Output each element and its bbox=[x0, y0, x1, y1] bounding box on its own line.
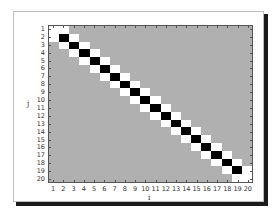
x-tick-mark bbox=[197, 180, 198, 183]
matrix-cell bbox=[201, 57, 211, 65]
x-tick-label: 10 bbox=[141, 186, 149, 193]
matrix-cell bbox=[201, 151, 211, 159]
matrix-cell bbox=[59, 120, 69, 128]
matrix-cell bbox=[120, 73, 130, 81]
matrix-cell bbox=[69, 135, 79, 143]
matrix-cell bbox=[211, 96, 221, 104]
matrix-cell bbox=[69, 42, 79, 50]
matrix-cell bbox=[171, 120, 181, 128]
matrix-cell bbox=[90, 151, 100, 159]
matrix-cell bbox=[181, 159, 191, 167]
matrix-cell bbox=[191, 135, 201, 143]
y-tick-label: 13 bbox=[37, 121, 45, 128]
matrix-cell bbox=[222, 151, 232, 159]
x-tick-label: 9 bbox=[133, 186, 137, 193]
matrix-cell bbox=[120, 159, 130, 167]
x-tick-mark bbox=[207, 25, 208, 28]
matrix-cell bbox=[90, 112, 100, 120]
matrix-cell bbox=[150, 151, 160, 159]
x-tick-mark bbox=[156, 180, 157, 183]
y-tick-label: 3 bbox=[41, 42, 45, 49]
x-tick-mark bbox=[53, 180, 54, 183]
matrix-cell bbox=[130, 88, 140, 96]
matrix-cell bbox=[79, 166, 89, 174]
y-tick-mark bbox=[250, 124, 253, 125]
y-tick-mark bbox=[48, 68, 51, 69]
matrix-cell bbox=[201, 104, 211, 112]
matrix-cell bbox=[232, 42, 242, 50]
matrix-cell bbox=[181, 65, 191, 73]
matrix-cell bbox=[59, 73, 69, 81]
matrix-cell bbox=[161, 65, 171, 73]
matrix-cell bbox=[140, 104, 150, 112]
x-tick-mark bbox=[217, 180, 218, 183]
matrix-cell bbox=[79, 112, 89, 120]
matrix-cell bbox=[191, 96, 201, 104]
matrix-grid bbox=[49, 26, 252, 182]
y-tick-mark bbox=[48, 179, 51, 180]
matrix-cell bbox=[140, 96, 150, 104]
matrix-cell bbox=[161, 73, 171, 81]
matrix-cell bbox=[171, 135, 181, 143]
matrix-cell bbox=[181, 104, 191, 112]
matrix-cell bbox=[110, 104, 120, 112]
matrix-cell bbox=[120, 49, 130, 57]
matrix-cell bbox=[211, 104, 221, 112]
matrix-cell bbox=[130, 166, 140, 174]
x-tick-mark bbox=[197, 25, 198, 28]
matrix-cell bbox=[201, 143, 211, 151]
y-tick-mark bbox=[250, 147, 253, 148]
y-tick-mark bbox=[48, 100, 51, 101]
matrix-cell bbox=[191, 120, 201, 128]
matrix-cell bbox=[201, 166, 211, 174]
matrix-cell bbox=[110, 120, 120, 128]
matrix-cell bbox=[150, 143, 160, 151]
matrix-cell bbox=[161, 34, 171, 42]
matrix-cell bbox=[110, 42, 120, 50]
matrix-cell bbox=[110, 112, 120, 120]
matrix-cell bbox=[90, 96, 100, 104]
matrix-cell bbox=[69, 81, 79, 89]
matrix-cell bbox=[100, 81, 110, 89]
matrix-cell bbox=[201, 120, 211, 128]
matrix-cell bbox=[222, 120, 232, 128]
matrix-cell bbox=[181, 112, 191, 120]
x-tick-label: 7 bbox=[113, 186, 117, 193]
matrix-cell bbox=[201, 65, 211, 73]
matrix-cell bbox=[79, 81, 89, 89]
matrix-cell bbox=[110, 151, 120, 159]
matrix-cell bbox=[59, 112, 69, 120]
matrix-cell bbox=[232, 120, 242, 128]
matrix-cell bbox=[171, 65, 181, 73]
matrix-cell bbox=[59, 81, 69, 89]
matrix-cell bbox=[150, 65, 160, 73]
y-tick-label: 15 bbox=[37, 136, 45, 143]
x-tick-mark bbox=[227, 25, 228, 28]
matrix-cell bbox=[150, 120, 160, 128]
matrix-cell bbox=[130, 120, 140, 128]
matrix-cell bbox=[171, 88, 181, 96]
y-tick-mark bbox=[250, 132, 253, 133]
matrix-cell bbox=[79, 49, 89, 57]
matrix-cell bbox=[120, 127, 130, 135]
matrix-cell bbox=[110, 135, 120, 143]
y-tick-label: 4 bbox=[41, 49, 45, 56]
matrix-cell bbox=[161, 57, 171, 65]
matrix-cell bbox=[161, 143, 171, 151]
matrix-cell bbox=[69, 104, 79, 112]
matrix-cell bbox=[150, 49, 160, 57]
matrix-cell bbox=[59, 159, 69, 167]
matrix-cell bbox=[79, 127, 89, 135]
matrix-cell bbox=[201, 112, 211, 120]
matrix-cell bbox=[69, 73, 79, 81]
matrix-cell bbox=[100, 104, 110, 112]
x-tick-label: 15 bbox=[192, 186, 200, 193]
matrix-cell bbox=[130, 151, 140, 159]
matrix-cell bbox=[150, 42, 160, 50]
matrix-cell bbox=[59, 65, 69, 73]
x-tick-mark bbox=[135, 25, 136, 28]
matrix-cell bbox=[120, 143, 130, 151]
matrix-cell bbox=[171, 159, 181, 167]
matrix-cell bbox=[59, 166, 69, 174]
matrix-cell bbox=[69, 120, 79, 128]
